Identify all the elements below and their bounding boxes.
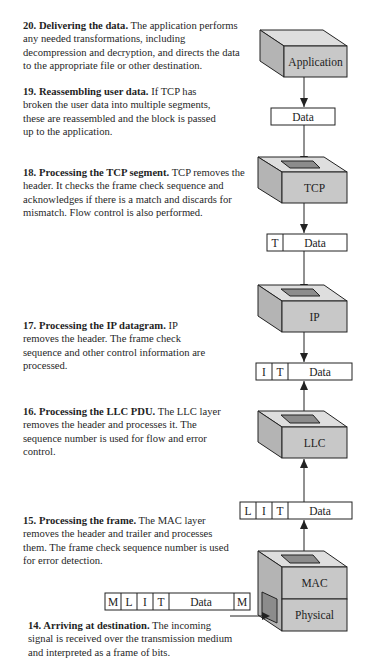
protocol-stack-diagram: Application Data TCP T Data IP (0, 0, 370, 668)
svg-text:T: T (276, 505, 283, 517)
pdu-llc: L I T Data (240, 502, 352, 519)
svg-text:Data: Data (309, 505, 331, 517)
svg-text:LLC: LLC (304, 437, 326, 449)
svg-text:T: T (271, 237, 278, 249)
ip-layer-block: IP (258, 285, 347, 332)
svg-text:T: T (157, 596, 164, 608)
arrowhead-down-icon (300, 98, 308, 107)
mac-physical-layer-block: MAC Physical (258, 551, 347, 631)
pdu-mac-frame: M L I T Data M (105, 593, 250, 610)
arrowhead-down-icon (300, 353, 308, 362)
arrowhead-up-icon (300, 381, 308, 390)
svg-text:IP: IP (309, 311, 319, 323)
svg-text:I: I (262, 366, 266, 378)
svg-text:T: T (276, 366, 283, 378)
svg-text:L: L (244, 505, 251, 517)
svg-text:I: I (262, 505, 266, 517)
pdu-ip-datagram: I T Data (256, 363, 352, 380)
pdu-tcp-segment: T Data (267, 234, 347, 251)
svg-text:Data: Data (292, 111, 314, 123)
layer-label: Application (288, 56, 343, 69)
svg-text:Data: Data (304, 237, 326, 249)
svg-text:M: M (237, 596, 247, 608)
arrowhead-down-icon (300, 224, 308, 233)
application-layer-block: Application (260, 30, 347, 77)
arrowhead-up-icon (300, 459, 308, 468)
svg-text:Physical: Physical (295, 609, 334, 622)
svg-text:Data: Data (190, 596, 212, 608)
svg-text:M: M (108, 596, 118, 608)
svg-text:TCP: TCP (304, 182, 325, 194)
svg-text:Data: Data (309, 366, 331, 378)
svg-text:L: L (125, 596, 132, 608)
arrowhead-up-icon (300, 520, 308, 529)
svg-text:MAC: MAC (301, 577, 328, 589)
svg-text:I: I (143, 596, 147, 608)
pdu-data: Data (271, 108, 335, 125)
llc-layer-block: LLC (258, 411, 347, 458)
tcp-layer-block: TCP (258, 157, 347, 203)
